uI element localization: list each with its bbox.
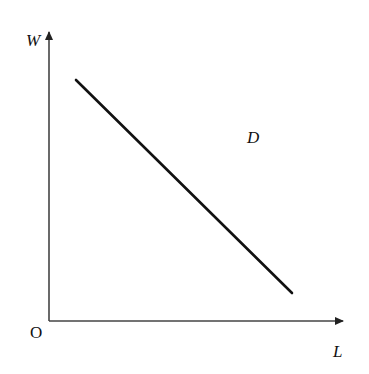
curve-label-d: D — [246, 128, 260, 147]
y-axis-label: W — [26, 31, 42, 50]
demand-line-d — [76, 80, 292, 293]
x-axis-label: L — [332, 342, 342, 361]
diagram-canvas: W L O D — [0, 0, 369, 374]
origin-label: O — [30, 323, 42, 342]
